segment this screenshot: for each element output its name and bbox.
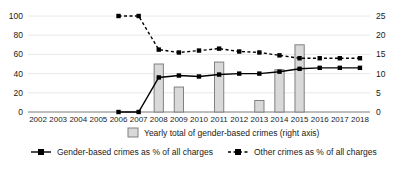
- x-tick-label: 2006: [110, 115, 128, 124]
- data-point-marker: [237, 49, 241, 53]
- x-tick-label: 2013: [250, 115, 268, 124]
- legend-bar-swatch-icon: [128, 128, 138, 137]
- line-series-layer: [116, 14, 362, 114]
- x-tick-label: 2009: [170, 115, 188, 124]
- data-point-marker: [136, 110, 140, 114]
- data-point-marker: [277, 69, 281, 73]
- data-point-marker: [177, 50, 181, 54]
- legend-item-label-gender-based: Gender-based crimes as % of all charges: [57, 147, 213, 157]
- data-point-marker: [297, 56, 301, 60]
- x-tick-label: 2016: [311, 115, 329, 124]
- x-tick-label: 2004: [69, 115, 87, 124]
- gridlines: [28, 16, 370, 93]
- data-point-marker: [318, 66, 322, 70]
- data-point-marker: [338, 66, 342, 70]
- x-tick-label: 2014: [271, 115, 289, 124]
- bar: [275, 70, 284, 112]
- x-tick-label: 2017: [331, 115, 349, 124]
- data-point-marker: [277, 53, 281, 57]
- left-tick-label: 60: [14, 49, 24, 59]
- data-point-marker: [237, 71, 241, 75]
- data-point-marker: [136, 14, 140, 18]
- data-point-marker: [177, 73, 181, 77]
- data-point-marker: [116, 14, 120, 18]
- right-axis-ticks: 25 20 15 10 5 0: [376, 11, 386, 117]
- legend: Yearly total of gender-based crimes (rig…: [31, 128, 377, 157]
- right-tick-label: 20: [376, 30, 386, 40]
- legend-dashed-square-icon: [235, 149, 241, 155]
- x-axis-tick-labels: 2002200320042005200620072008200920102011…: [29, 115, 369, 124]
- data-point-marker: [257, 71, 261, 75]
- x-tick-label: 2011: [211, 115, 229, 124]
- x-tick-label: 2018: [351, 115, 369, 124]
- legend-solid-square-icon: [38, 149, 44, 155]
- x-tick-label: 2015: [291, 115, 309, 124]
- data-point-marker: [197, 48, 201, 52]
- data-point-marker: [318, 56, 322, 60]
- right-tick-label: 0: [376, 107, 381, 117]
- x-tick-label: 2010: [190, 115, 208, 124]
- legend-item-label-other-crimes: Other crimes as % of all charges: [254, 147, 377, 157]
- bar: [214, 62, 223, 112]
- bar: [174, 87, 183, 112]
- data-point-marker: [157, 47, 161, 51]
- x-tick-label: 2003: [49, 115, 67, 124]
- bar: [255, 100, 264, 112]
- data-point-marker: [217, 46, 221, 50]
- right-tick-label: 25: [376, 11, 386, 21]
- bar: [295, 45, 304, 112]
- x-tick-label: 2008: [150, 115, 168, 124]
- right-tick-label: 5: [376, 88, 381, 98]
- left-axis-ticks: 100 80 60 40 20 0: [9, 11, 23, 117]
- left-tick-label: 20: [14, 88, 24, 98]
- x-tick-label: 2012: [230, 115, 248, 124]
- left-tick-label: 100: [9, 11, 23, 21]
- left-tick-label: 0: [18, 107, 23, 117]
- x-tick-label: 2005: [90, 115, 108, 124]
- legend-item-label-bars: Yearly total of gender-based crimes (rig…: [144, 128, 320, 138]
- right-tick-label: 15: [376, 49, 386, 59]
- left-tick-label: 80: [14, 30, 24, 40]
- data-point-marker: [257, 50, 261, 54]
- data-point-marker: [217, 72, 221, 76]
- data-point-marker: [197, 74, 201, 78]
- right-tick-label: 10: [376, 69, 386, 79]
- data-point-marker: [338, 56, 342, 60]
- data-point-marker: [157, 75, 161, 79]
- chart-svg: 100 80 60 40 20 0 25 20 15 10 5 0 200220…: [0, 0, 399, 177]
- data-point-marker: [358, 56, 362, 60]
- bar: [154, 64, 163, 112]
- chart-container: 100 80 60 40 20 0 25 20 15 10 5 0 200220…: [0, 0, 399, 177]
- x-tick-label: 2002: [29, 115, 47, 124]
- data-point-marker: [297, 67, 301, 71]
- x-tick-label: 2007: [130, 115, 148, 124]
- data-point-marker: [358, 66, 362, 70]
- data-point-marker: [116, 110, 120, 114]
- left-tick-label: 40: [14, 69, 24, 79]
